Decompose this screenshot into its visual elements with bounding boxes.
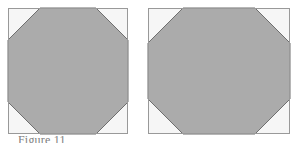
left-panel: [8, 8, 128, 134]
figure-canvas: [0, 0, 298, 143]
left-panel-octagon: [8, 8, 128, 134]
right-panel: [148, 8, 290, 134]
right-panel-octagon: [148, 8, 290, 134]
